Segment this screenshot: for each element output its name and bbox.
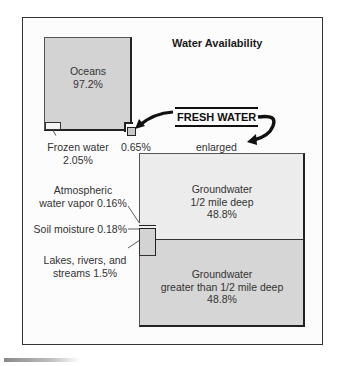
frozen-water-percent: 2.05% xyxy=(44,154,112,167)
atmospheric-line2: water vapor 0.16% xyxy=(38,197,128,210)
atmospheric-label: Atmospheric water vapor 0.16% xyxy=(38,184,128,209)
frozen-water-label: Frozen water 2.05% xyxy=(44,141,112,167)
groundwater-deep-name: Groundwater xyxy=(139,268,305,281)
fresh-water-square xyxy=(127,127,136,136)
decorative-gradient-bar xyxy=(4,358,80,362)
lakes-line2: streams 1.5% xyxy=(40,267,130,280)
diagram-title: Water Availability xyxy=(172,37,262,49)
fresh-water-heading: FRESH WATER xyxy=(175,107,258,127)
lakes-line1: Lakes, rivers, and xyxy=(40,254,130,267)
soil-moisture-label: Soil moisture 0.18% xyxy=(32,223,127,236)
lakes-label: Lakes, rivers, and streams 1.5% xyxy=(40,254,130,279)
oceans-label: Oceans 97.2% xyxy=(44,65,132,91)
groundwater-shallow-name: Groundwater xyxy=(139,183,305,196)
oceans-percent: 97.2% xyxy=(44,78,132,91)
groundwater-deep-percent: 48.8% xyxy=(139,293,305,306)
enlarged-label: enlarged xyxy=(196,141,237,153)
frozen-water-box xyxy=(45,122,61,130)
groundwater-shallow-percent: 48.8% xyxy=(139,208,305,221)
fresh-water-percent: 0.65% xyxy=(121,141,151,153)
soil-moisture-band xyxy=(139,226,156,229)
groundwater-deep-label: Groundwater greater than 1/2 mile deep 4… xyxy=(139,268,305,306)
groundwater-shallow-label: Groundwater 1/2 mile deep 48.8% xyxy=(139,183,305,221)
oceans-name: Oceans xyxy=(44,65,132,78)
atmospheric-line1: Atmospheric xyxy=(38,184,128,197)
groundwater-shallow-depth: 1/2 mile deep xyxy=(139,196,305,209)
groundwater-deep-depth: greater than 1/2 mile deep xyxy=(139,281,305,294)
frozen-water-name: Frozen water xyxy=(44,141,112,154)
